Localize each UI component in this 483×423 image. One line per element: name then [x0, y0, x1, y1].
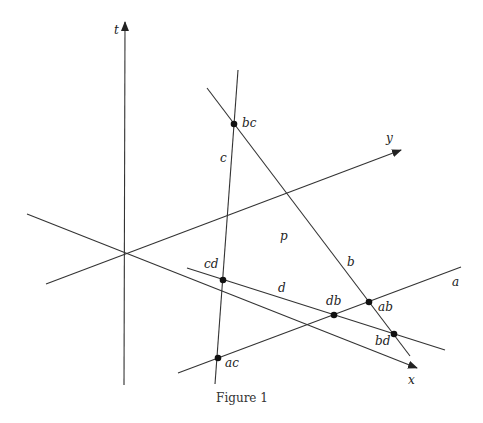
t-axis-label: t	[114, 23, 119, 37]
figure-caption: Figure 1	[216, 391, 268, 405]
line-b-label: b	[347, 255, 355, 269]
point-bd-label: bd	[375, 334, 391, 348]
point-db-label: db	[326, 294, 341, 308]
point-ab-label: ab	[378, 300, 393, 314]
y-axis-label: y	[385, 131, 393, 145]
point-ac-label: ac	[225, 356, 239, 370]
point-cd	[220, 277, 227, 284]
t-axis	[124, 22, 125, 385]
point-db	[331, 312, 338, 319]
line-b	[207, 88, 410, 356]
line-c	[215, 70, 238, 384]
lines	[178, 70, 461, 384]
x-axis-label: x	[408, 373, 415, 387]
line-a-label: a	[452, 275, 459, 289]
line-c-label: c	[220, 151, 227, 165]
line-d-label: d	[278, 281, 286, 295]
point-bc-label: bc	[242, 116, 257, 130]
point-cd-label: cd	[204, 257, 219, 271]
region-label-p: p	[280, 229, 288, 243]
point-ab	[366, 299, 373, 306]
axes	[27, 22, 417, 385]
point-bd	[391, 331, 398, 338]
figure-1-diagram: tyxabcdbccddbabbdac p Figure 1	[0, 0, 483, 423]
point-ac	[215, 355, 222, 362]
point-bc	[231, 121, 238, 128]
